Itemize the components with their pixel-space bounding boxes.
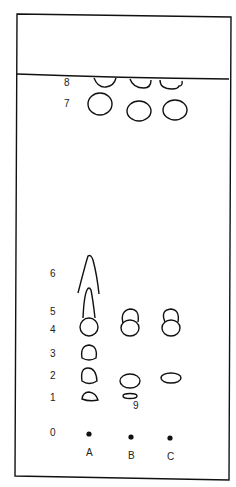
plate-border xyxy=(15,14,231,480)
lane-label-c: C xyxy=(167,451,174,462)
rf-label-5: 5 xyxy=(50,306,56,317)
spot-b-4 xyxy=(121,320,139,336)
spot-a-7 xyxy=(88,93,112,115)
spot-a-2 xyxy=(82,368,97,384)
spot-b-1 xyxy=(123,394,137,399)
spot-c-7 xyxy=(163,100,187,120)
spot-a-3 xyxy=(82,345,97,360)
rf-label-6: 6 xyxy=(50,268,56,279)
spot-c-4 xyxy=(162,320,180,336)
spot-b-7 xyxy=(127,101,151,121)
tlc-plate: 8 7 6 5 4 3 2 1 0 9 A xyxy=(0,0,236,487)
rf-label-0: 0 xyxy=(50,427,56,438)
spot-a-5 xyxy=(83,288,95,318)
rf-label-3: 3 xyxy=(50,348,56,359)
spot-a-8 xyxy=(94,78,116,87)
rf-label-1: 1 xyxy=(50,392,56,403)
lane-label-a: A xyxy=(86,447,93,458)
spot-a-1 xyxy=(82,392,98,401)
spot-b-8 xyxy=(130,79,151,88)
rf-label-2: 2 xyxy=(50,370,56,381)
spot-b-2 xyxy=(120,374,140,388)
spots xyxy=(78,78,187,401)
spot-c-2 xyxy=(161,373,181,383)
origin-dot-a xyxy=(86,431,91,436)
rf-labels: 8 7 6 5 4 3 2 1 0 xyxy=(50,77,70,438)
solvent-front-line xyxy=(17,74,229,79)
origin-dot-b xyxy=(128,434,133,439)
rf-label-8: 8 xyxy=(64,77,70,88)
origin-dot-c xyxy=(167,435,172,440)
rf-label-7: 7 xyxy=(64,98,70,109)
lane-label-b: B xyxy=(128,450,135,461)
rf-label-4: 4 xyxy=(50,324,56,335)
spot-label-9: 9 xyxy=(133,400,139,411)
spot-a-4 xyxy=(80,318,98,336)
spot-c-8 xyxy=(160,80,182,89)
